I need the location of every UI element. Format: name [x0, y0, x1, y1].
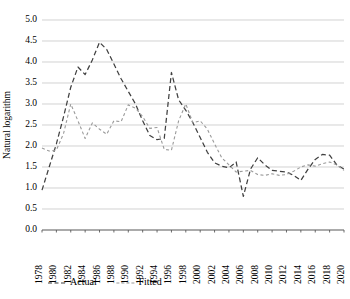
x-axis-tick-label: 2004 — [221, 265, 231, 284]
data-series-group — [42, 42, 344, 196]
x-axis-tick-label: 2006 — [235, 265, 245, 284]
y-axis-tick-label: 3.5 — [25, 77, 37, 87]
y-axis-tick-label: 4.5 — [25, 35, 37, 45]
chart-container: 0.00.51.01.52.02.53.03.54.04.55.0 197819… — [0, 0, 350, 299]
line-chart: 0.00.51.01.52.02.53.03.54.04.55.0 197819… — [0, 0, 350, 299]
legend-label-actual: Actual — [70, 276, 97, 287]
x-axis-tick-label: 1978 — [34, 265, 44, 284]
x-axis-tick-label: 2012 — [278, 265, 288, 284]
series-line-fitted — [42, 104, 344, 175]
x-axis-tick-label: 1998 — [178, 265, 188, 284]
gridlines — [42, 20, 344, 209]
x-axis-tick-label: 1996 — [163, 265, 173, 284]
y-axis-tick-label: 0.0 — [25, 224, 37, 234]
y-axis-tick-label: 1.0 — [25, 182, 37, 192]
y-axis-tick-label: 0.5 — [25, 203, 37, 213]
x-axis-tick-label: 2016 — [307, 265, 317, 284]
y-axis-tick-label: 5.0 — [25, 14, 37, 24]
x-axis-tick-label: 2010 — [264, 265, 274, 284]
x-axis-tick-label: 2002 — [207, 265, 217, 284]
x-axis-tick-label: 1988 — [106, 265, 116, 284]
x-axis-tick-label: 2014 — [293, 265, 303, 284]
series-line-actual — [42, 42, 344, 196]
y-axis-tick-label: 3.0 — [25, 98, 37, 108]
x-axis-tick-label: 1980 — [48, 265, 58, 284]
x-axis-tick-label: 2020 — [336, 265, 346, 284]
y-axis-tick-label: 2.5 — [25, 119, 37, 129]
y-axis-tick-label: 1.5 — [25, 161, 37, 171]
y-axis-tick-label: 2.0 — [25, 140, 37, 150]
x-axis-tick-label: 2018 — [322, 265, 332, 284]
y-axis-tick-label: 4.0 — [25, 56, 37, 66]
x-axis-tick-label: 2000 — [192, 265, 202, 284]
y-axis-title: Natural logarithm — [2, 90, 12, 158]
legend-label-fitted: Fitted — [138, 276, 161, 287]
x-axis-tick-label: 2008 — [250, 265, 260, 284]
y-axis-tick-labels: 0.00.51.01.52.02.53.03.54.04.55.0 — [25, 14, 37, 234]
x-axis-tick-label: 1990 — [120, 265, 130, 284]
